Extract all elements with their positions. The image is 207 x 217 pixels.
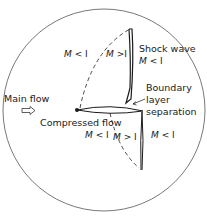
mach-relation: < I <box>75 49 88 59</box>
mach-lower-middle: M > I <box>113 132 137 143</box>
separation-label: separation <box>146 106 197 117</box>
upper-shock-wave <box>126 29 133 103</box>
compressed-flow-label: Compressed flow <box>40 117 122 128</box>
mach-symbol: M <box>64 49 72 59</box>
mach-upper-left: M < I <box>64 49 88 60</box>
boundary-layer-pointer <box>133 99 145 104</box>
mach-relation: < I <box>162 130 175 140</box>
leading-edge-dot-icon <box>75 108 79 112</box>
mach-symbol: M <box>151 130 159 140</box>
shock-wave-label: Shock wave <box>139 43 196 54</box>
layer-label: layer <box>146 94 170 105</box>
mach-symbol: M <box>106 49 114 59</box>
mach-relation: < I <box>96 130 109 140</box>
mach-symbol: M <box>85 130 93 140</box>
main-flow-arrow-icon <box>22 107 35 115</box>
mach-symbol: M <box>113 132 121 142</box>
upper-sonic-line <box>80 29 130 108</box>
mach-relation: >I <box>117 49 127 59</box>
mach-relation: > I <box>124 132 137 142</box>
mach-symbol: M <box>139 56 147 66</box>
mach-lower-right: M < I <box>151 130 175 141</box>
mach-relation: < I <box>150 56 163 66</box>
mach-upper-right: M < I <box>139 56 163 67</box>
lower-shock-wave <box>141 112 143 170</box>
mach-lower-left: M < I <box>85 130 109 141</box>
airfoil <box>77 107 143 114</box>
boundary-label: Boundary <box>146 82 192 93</box>
mach-upper-middle: M >I <box>106 49 127 60</box>
main-flow-label: Main flow <box>4 93 49 104</box>
